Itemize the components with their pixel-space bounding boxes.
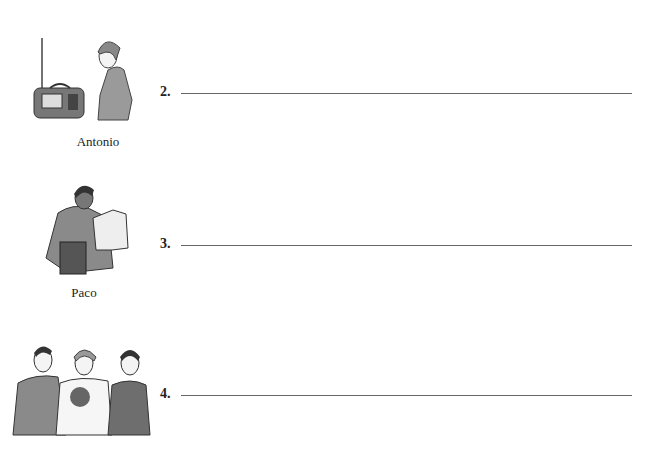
- exercise-item-2: Antonio 2.: [0, 0, 654, 160]
- item-number: 4.: [160, 386, 171, 402]
- person-reading-book-icon: [38, 178, 133, 278]
- answer-line-2[interactable]: [181, 93, 632, 94]
- item-number: 2.: [160, 84, 171, 100]
- answer-line-4[interactable]: [181, 395, 632, 396]
- exercise-item-3: Paco 3.: [0, 160, 654, 310]
- person-with-radio-icon: [28, 30, 138, 130]
- answer-line-3[interactable]: [181, 245, 632, 246]
- person-name-label: Paco: [54, 285, 114, 301]
- item-number: 3.: [160, 236, 171, 252]
- three-people-with-flowers-icon: [8, 335, 153, 445]
- exercise-item-4: 4.: [0, 310, 654, 454]
- person-name-label: Antonio: [58, 134, 138, 150]
